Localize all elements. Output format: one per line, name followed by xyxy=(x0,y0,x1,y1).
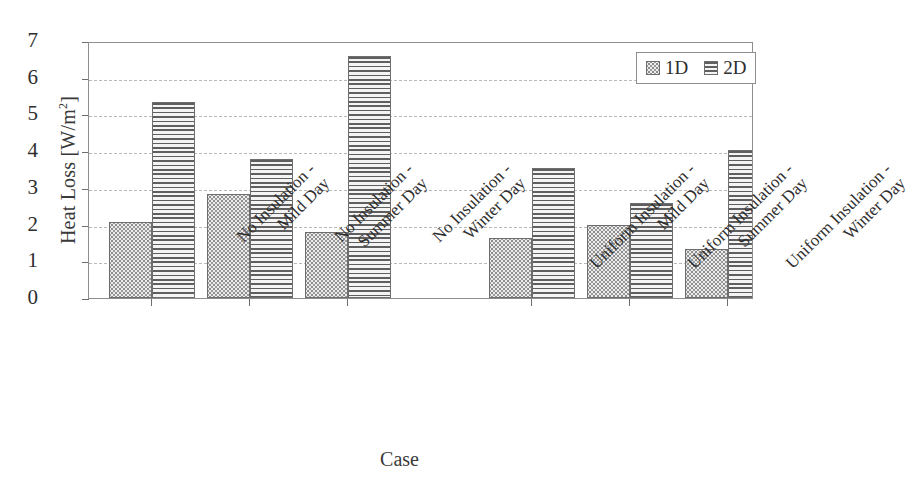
y-axis-tick-label: 1 xyxy=(0,250,38,271)
y-axis-title-text: Heat Loss [W/m xyxy=(57,109,79,244)
x-axis-tick-mark xyxy=(347,299,348,306)
x-axis-tick-mark xyxy=(151,299,152,306)
legend-entry-2d: 2D xyxy=(704,58,746,77)
legend-label-1d: 1D xyxy=(665,58,688,77)
y-axis-tick-label: 7 xyxy=(0,30,38,51)
bar-1d-4 xyxy=(489,238,532,298)
y-axis-title-suffix: ] xyxy=(57,96,79,103)
bar-1d-1 xyxy=(109,222,152,298)
bar-2d-1 xyxy=(152,102,195,298)
y-axis-tick-label: 6 xyxy=(0,67,38,88)
y-axis-tick-label: 3 xyxy=(0,177,38,198)
legend-entry-1d: 1D xyxy=(646,58,688,77)
y-axis-tick-label: 5 xyxy=(0,103,38,124)
x-axis-tick-mark xyxy=(249,299,250,306)
x-axis-tick-mark xyxy=(629,299,630,306)
chart-legend: 1D 2D xyxy=(636,52,756,84)
y-axis-title-superscript: 2 xyxy=(56,103,70,109)
y-axis-tick-label: 0 xyxy=(0,287,38,308)
x-axis-title: Case xyxy=(0,448,799,471)
x-axis-tick-mark xyxy=(727,299,728,306)
y-axis-tick-label: 2 xyxy=(0,214,38,235)
y-axis-tick-label: 4 xyxy=(0,140,38,161)
legend-label-2d: 2D xyxy=(723,58,746,77)
x-axis-tick-mark xyxy=(531,299,532,306)
legend-swatch-2d-icon xyxy=(704,61,718,75)
y-axis-tick-mark xyxy=(82,299,89,300)
legend-swatch-1d-icon xyxy=(646,61,660,75)
